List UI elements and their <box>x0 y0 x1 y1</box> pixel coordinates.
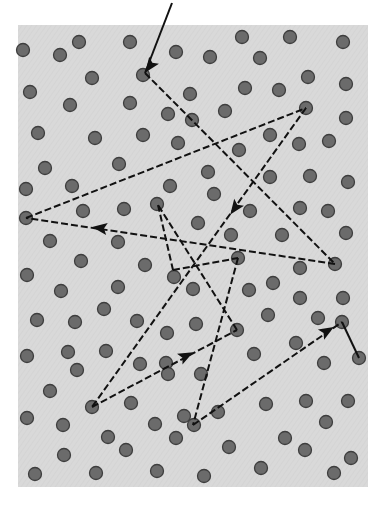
scatterer-dot <box>98 303 111 316</box>
scatterer-dot <box>184 88 197 101</box>
scatterer-dot <box>131 315 144 328</box>
scatterer-dot <box>300 395 313 408</box>
scatterer-dot <box>125 397 138 410</box>
scatterer-dot <box>337 36 350 49</box>
scatterer-dot <box>149 418 162 431</box>
scatterer-dot <box>55 285 68 298</box>
scatterer-dot <box>204 51 217 64</box>
scatterer-dot <box>239 82 252 95</box>
scatterer-dot <box>302 71 315 84</box>
scatterer-dot <box>340 112 353 125</box>
scatterer-dot <box>139 259 152 272</box>
scatterer-dot <box>225 229 238 242</box>
scatterer-dot <box>233 144 246 157</box>
scatterer-dot <box>75 255 88 268</box>
scatterer-dot <box>69 316 82 329</box>
scatterer-dot <box>90 467 103 480</box>
scatterer-dot <box>323 135 336 148</box>
scatterer-dot <box>17 44 30 57</box>
scatterer-dot <box>202 166 215 179</box>
scatterer-dot <box>39 162 52 175</box>
scatterer-dot <box>100 345 113 358</box>
scatterer-dot <box>243 284 256 297</box>
scatterer-dot <box>21 269 34 282</box>
scatterer-dot <box>198 470 211 483</box>
scatterer-dot <box>276 229 289 242</box>
scatterer-dot <box>320 416 333 429</box>
scatterer-dot <box>21 350 34 363</box>
scatterer-dot <box>260 398 273 411</box>
scatterer-dot <box>208 188 221 201</box>
scatterer-dot <box>318 357 331 370</box>
scatterer-dot <box>31 314 44 327</box>
scatterer-dot <box>29 468 42 481</box>
scatterer-dot <box>192 217 205 230</box>
scatterer-dot <box>262 309 275 322</box>
scatterer-dot <box>151 465 164 478</box>
scatterer-dot <box>294 262 307 275</box>
scatterer-dot <box>64 99 77 112</box>
scatterer-dot <box>112 236 125 249</box>
scatterer-dot <box>44 385 57 398</box>
scatterer-dot <box>345 452 358 465</box>
scatterer-dot <box>134 358 147 371</box>
scatterer-dot <box>312 312 325 325</box>
scatterer-dot <box>21 412 34 425</box>
scatterer-dot <box>57 419 70 432</box>
scatterer-dot <box>294 202 307 215</box>
scatterer-dot <box>32 127 45 140</box>
scatterer-dot <box>172 137 185 150</box>
scatterer-dot <box>293 138 306 151</box>
scatterer-dot <box>162 108 175 121</box>
random-walk-diagram <box>0 0 385 507</box>
scatterer-dot <box>340 227 353 240</box>
scatterer-dot <box>151 198 164 211</box>
scatterer-dot <box>170 46 183 59</box>
scatterer-dot <box>113 158 126 171</box>
scatterer-dot <box>248 348 261 361</box>
scatterer-dot <box>337 292 350 305</box>
scatterer-dot <box>170 432 183 445</box>
scatterer-dot <box>223 441 236 454</box>
scatterer-dot <box>66 180 79 193</box>
scatterer-dot <box>328 467 341 480</box>
scatterer-dot <box>120 444 133 457</box>
scatterer-dot <box>304 170 317 183</box>
scatterer-dot <box>71 364 84 377</box>
scatterer-dot <box>264 171 277 184</box>
scatterer-dot <box>73 36 86 49</box>
scatterer-dot <box>54 49 67 62</box>
scatterer-dot <box>112 281 125 294</box>
scatterer-dot <box>161 327 174 340</box>
scatterer-dot <box>124 36 137 49</box>
scatterer-dot <box>264 129 277 142</box>
scatterer-dot <box>340 78 353 91</box>
scatterer-dot <box>236 31 249 44</box>
scatterer-dot <box>290 337 303 350</box>
scatterer-dot <box>273 84 286 97</box>
scatterer-dot <box>24 86 37 99</box>
scatterer-dot <box>190 318 203 331</box>
scatterer-dot <box>44 235 57 248</box>
scatterer-dot <box>284 31 297 44</box>
scatterer-dot <box>254 52 267 65</box>
scatterer-dot <box>86 72 99 85</box>
scatterer-dot <box>342 176 355 189</box>
scatterer-dot <box>89 132 102 145</box>
scatterer-dot <box>244 205 257 218</box>
scatterer-dot <box>279 432 292 445</box>
scatterer-dot <box>255 462 268 475</box>
scatterer-dot <box>219 105 232 118</box>
scatterer-dot <box>267 277 280 290</box>
scatterer-dot <box>164 180 177 193</box>
scatterer-dot <box>299 444 312 457</box>
scatterer-dot <box>137 129 150 142</box>
scatterer-dot <box>20 183 33 196</box>
scatterer-dot <box>124 97 137 110</box>
scatterer-dot <box>118 203 131 216</box>
scatterer-dot <box>168 271 181 284</box>
scatterer-dot <box>77 205 90 218</box>
scatterer-dot <box>294 292 307 305</box>
scatterer-dot <box>322 205 335 218</box>
scatterer-dot <box>342 395 355 408</box>
